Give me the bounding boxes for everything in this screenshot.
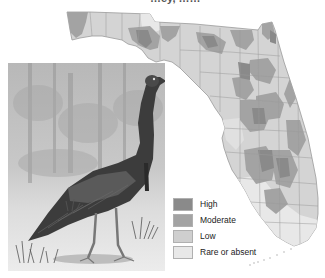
legend-swatch-moderate <box>173 214 193 227</box>
turkey-illustration <box>8 63 165 271</box>
legend-swatch-rare <box>173 246 193 259</box>
legend-item-low: Low <box>173 228 256 244</box>
map-legend: High Moderate Low Rare or absent <box>173 196 256 260</box>
legend-label-moderate: Moderate <box>200 215 236 225</box>
legend-item-moderate: Moderate <box>173 212 256 228</box>
legend-swatch-low <box>173 230 193 243</box>
legend-label-high: High <box>200 199 217 209</box>
legend-label-rare: Rare or absent <box>200 247 256 257</box>
legend-label-low: Low <box>200 231 216 241</box>
legend-swatch-high <box>173 198 193 211</box>
legend-item-rare: Rare or absent <box>173 244 256 260</box>
legend-item-high: High <box>173 196 256 212</box>
